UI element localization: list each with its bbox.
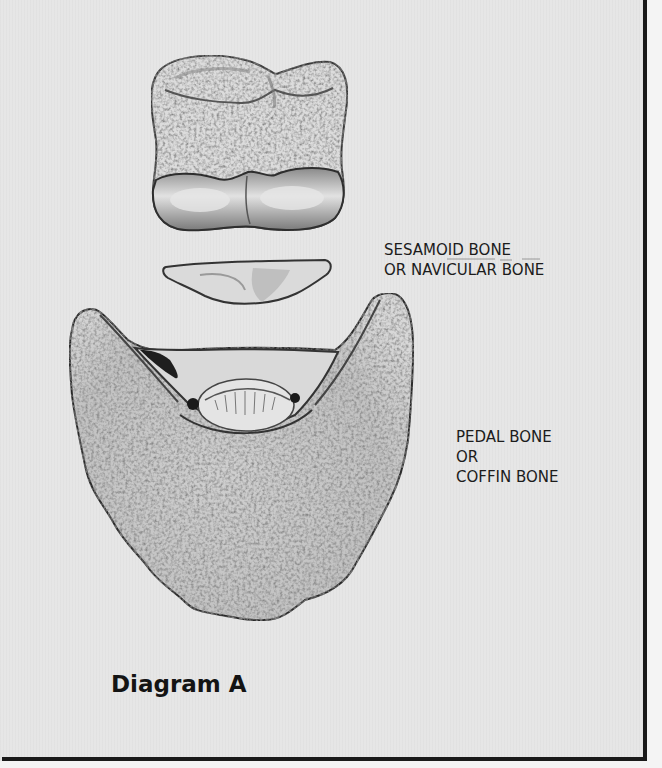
sesamoid-bone-label: SESAMOID BONE OR NAVICULAR BONE [384,240,544,280]
diagram-page: SESAMOID BONE OR NAVICULAR BONE PEDAL BO… [0,0,662,768]
diagram-title: Diagram A [111,671,247,697]
pedal-label-line-2: OR [456,447,558,467]
pedal-bone-label: PEDAL BONE OR COFFIN BONE [456,427,558,487]
page-margin-bottom [0,761,662,768]
pedal-bone [70,293,413,620]
pedal-label-line-3: COFFIN BONE [456,467,558,487]
pedal-label-line-1: PEDAL BONE [456,427,558,447]
sesamoid-label-line-1: SESAMOID BONE [384,240,544,260]
sesamoid-label-line-2: OR NAVICULAR BONE [384,260,544,280]
sesamoid-bone [163,260,331,304]
bone-illustration [0,0,662,768]
page-margin-right [647,0,662,768]
pastern-bone [151,56,347,231]
